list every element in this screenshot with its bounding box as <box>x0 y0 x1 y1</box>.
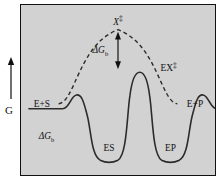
y-axis-arrow-icon <box>2 55 20 101</box>
label-products: E+P <box>187 99 203 109</box>
label-delta-g-subscript: b <box>105 50 108 57</box>
label-ep-complex: EP <box>165 143 176 153</box>
label-delta-g-binding: ΔGb <box>92 45 108 56</box>
label-binding-energy-subscript: b <box>51 136 54 143</box>
reaction-coordinate-plot: X‡ ΔGb EX‡ E+S E+P ΔGb ES EP <box>21 5 215 175</box>
label-transition-state-uncatalyzed: X‡ <box>112 14 123 26</box>
label-ex-symbol: EX <box>161 63 174 73</box>
label-transition-state-enzyme: EX‡ <box>161 61 178 73</box>
free-energy-diagram-figure: G X‡ ΔGb EX‡ E+S E+P ΔGb <box>0 0 222 181</box>
label-x-superscript: ‡ <box>119 14 123 23</box>
label-es-complex: ES <box>104 143 115 153</box>
delta-g-binding-arrow <box>115 32 121 70</box>
enzyme-catalyzed-reaction-curve <box>29 72 215 162</box>
label-reactants: E+S <box>34 99 50 109</box>
label-delta-g-symbol: ΔG <box>92 45 106 55</box>
plot-area: X‡ ΔGb EX‡ E+S E+P ΔGb ES EP <box>20 4 216 176</box>
label-ex-superscript: ‡ <box>173 61 177 70</box>
label-binding-energy-symbol: ΔG <box>38 131 52 141</box>
y-axis-label: G <box>0 104 18 116</box>
label-binding-energy: ΔGb <box>38 131 54 142</box>
